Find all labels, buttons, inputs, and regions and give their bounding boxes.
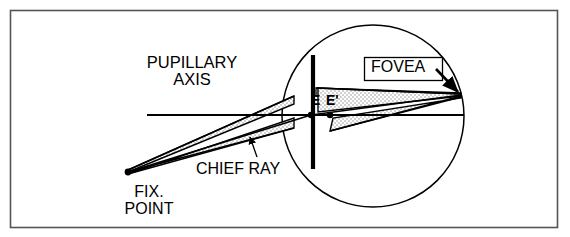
pupillary-axis-label: PUPILLARY AXIS bbox=[112, 54, 272, 89]
exit-pupil-label: E' bbox=[326, 93, 339, 108]
pupillary-axis-label-line2: AXIS bbox=[112, 71, 272, 88]
fovea-label: FOVEA bbox=[371, 59, 425, 76]
chief-ray-label: CHIEF RAY bbox=[196, 161, 280, 178]
fixation-point-marker bbox=[125, 169, 132, 176]
fixation-point-label-line2: POINT bbox=[106, 201, 192, 218]
eye-diagram bbox=[0, 0, 570, 237]
figure-border bbox=[11, 11, 558, 228]
exit-pupil-point bbox=[327, 112, 333, 118]
figure-root: PUPILLARY AXIS FOVEA CHIEF RAY FIX. POIN… bbox=[0, 0, 570, 237]
fixation-point-label-line1: FIX. bbox=[134, 183, 163, 200]
pupillary-axis-label-line1: PUPILLARY bbox=[147, 53, 238, 71]
entrance-pupil-point bbox=[308, 112, 314, 118]
fixation-point-label: FIX. POINT bbox=[106, 184, 192, 218]
entrance-pupil-label: E bbox=[311, 93, 320, 108]
